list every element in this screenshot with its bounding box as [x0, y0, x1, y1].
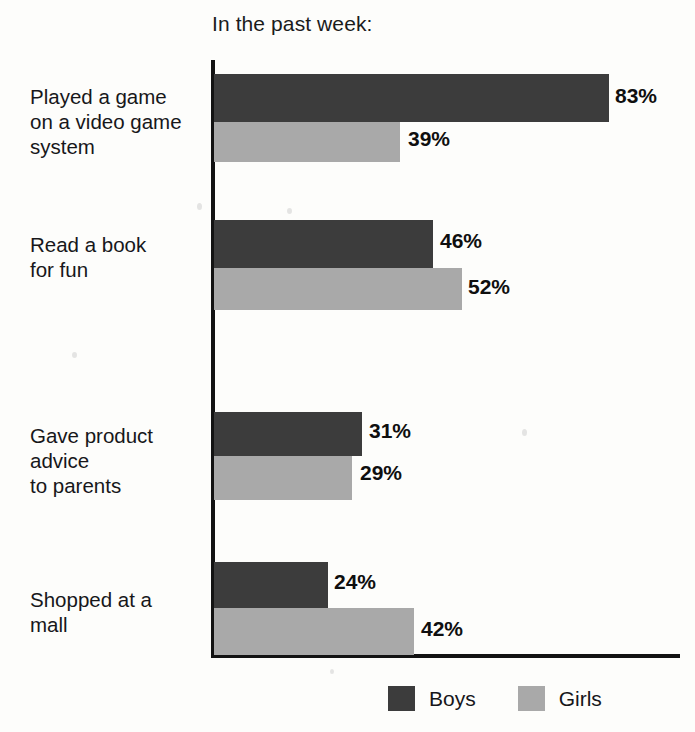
legend-swatch-girls-icon	[518, 686, 545, 711]
bar-value-girls-shopped-at-a-mall: 42%	[421, 617, 463, 641]
chart-legend: Boys Girls	[388, 686, 602, 711]
legend-swatch-boys-icon	[388, 686, 415, 711]
bar-value-girls-played-a-game: 39%	[408, 127, 450, 151]
category-label-line: Played a game	[30, 84, 212, 109]
bar-boys-read-a-book	[214, 220, 433, 268]
category-label-line: advice	[30, 448, 212, 473]
category-label-line: system	[30, 134, 212, 159]
legend-item-girls: Girls	[518, 686, 602, 711]
category-label-read-a-book: Read a book for fun	[30, 232, 212, 282]
category-label-line: to parents	[30, 473, 212, 498]
bar-value-girls-read-a-book: 52%	[468, 275, 510, 299]
bar-boys-gave-product-advice	[214, 412, 362, 456]
legend-label-boys: Boys	[429, 687, 476, 711]
bar-girls-played-a-game	[214, 122, 400, 162]
legend-item-boys: Boys	[388, 686, 476, 711]
bar-value-boys-gave-product-advice: 31%	[369, 419, 411, 443]
category-label-line: mall	[30, 612, 212, 637]
category-label-shopped-at-a-mall: Shopped at a mall	[30, 587, 212, 637]
chart-page: In the past week: Played a game on a vid…	[0, 0, 695, 732]
category-label-played-a-game: Played a game on a video game system	[30, 84, 212, 159]
legend-label-girls: Girls	[559, 687, 602, 711]
bar-girls-shopped-at-a-mall	[214, 608, 414, 655]
bar-boys-played-a-game	[214, 74, 609, 122]
bar-value-boys-read-a-book: 46%	[440, 229, 482, 253]
category-label-line: Gave product	[30, 423, 212, 448]
category-label-line: Read a book	[30, 232, 212, 257]
plot-area: Played a game on a video game system 83%…	[0, 0, 695, 700]
category-label-line: on a video game	[30, 109, 212, 134]
category-label-gave-product-advice: Gave product advice to parents	[30, 423, 212, 498]
bar-value-girls-gave-product-advice: 29%	[360, 461, 402, 485]
bar-girls-gave-product-advice	[214, 456, 352, 500]
bar-boys-shopped-at-a-mall	[214, 562, 328, 608]
category-label-line: for fun	[30, 257, 212, 282]
bar-value-boys-shopped-at-a-mall: 24%	[334, 570, 376, 594]
bar-value-boys-played-a-game: 83%	[615, 84, 657, 108]
bar-girls-read-a-book	[214, 268, 462, 310]
category-label-line: Shopped at a	[30, 587, 212, 612]
